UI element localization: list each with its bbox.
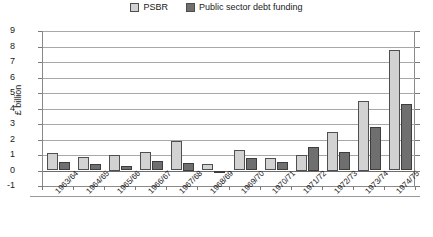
y-tick-label: 8 — [0, 42, 15, 51]
y-tick-label: -1 — [0, 181, 15, 190]
bar-public-sector-debt-funding — [401, 104, 412, 171]
bar-psbr — [296, 155, 307, 171]
legend-item-public-sector-debt-funding: Public sector debt funding — [186, 3, 303, 12]
bar-group — [198, 31, 229, 186]
legend-item-psbr: PSBR — [130, 3, 168, 12]
bar-group — [292, 31, 323, 186]
y-tick-mark-right — [415, 31, 420, 32]
legend-label-public-sector-debt-funding: Public sector debt funding — [199, 3, 303, 12]
y-tick-mark — [38, 62, 42, 63]
bar-group — [354, 31, 385, 186]
legend-swatch-public-sector-debt-funding — [186, 3, 195, 12]
y-tick-mark — [38, 171, 42, 172]
bar-public-sector-debt-funding — [339, 152, 350, 171]
y-tick-label: 4 — [0, 104, 15, 113]
y-tick-label: 6 — [0, 73, 15, 82]
y-tick-label: 1 — [0, 150, 15, 159]
plot-area — [42, 31, 415, 186]
legend-swatch-psbr — [130, 3, 139, 12]
bar-group — [136, 31, 167, 186]
y-tick-mark-right — [415, 140, 420, 141]
bar-public-sector-debt-funding — [246, 158, 257, 170]
bar-group — [105, 31, 136, 186]
bar-public-sector-debt-funding — [152, 161, 163, 170]
bar-psbr — [202, 164, 213, 170]
y-tick-label: 9 — [0, 26, 15, 35]
y-tick-mark — [38, 31, 42, 32]
y-tick-mark — [38, 155, 42, 156]
bar-psbr — [358, 101, 369, 171]
bar-psbr — [171, 141, 182, 170]
y-tick-mark — [38, 109, 42, 110]
y-tick-label: 2 — [0, 135, 15, 144]
bar-group — [385, 31, 416, 186]
bar-psbr — [327, 132, 338, 171]
y-tick-mark — [38, 140, 42, 141]
y-tick-mark-right — [415, 155, 420, 156]
bar-public-sector-debt-funding — [90, 164, 101, 170]
y-tick-mark — [38, 78, 42, 79]
bar-psbr — [389, 50, 400, 171]
y-tick-mark-right — [415, 124, 420, 125]
y-tick-mark — [38, 124, 42, 125]
bar-public-sector-debt-funding — [121, 166, 132, 171]
y-tick-label: 3 — [0, 119, 15, 128]
y-tick-label: 0 — [0, 166, 15, 175]
bar-public-sector-debt-funding — [308, 147, 319, 170]
legend-label-psbr: PSBR — [143, 3, 168, 12]
bar-groups — [43, 31, 416, 186]
y-tick-mark-right — [415, 109, 420, 110]
bar-group — [230, 31, 261, 186]
y-tick-mark — [38, 47, 42, 48]
bar-group — [74, 31, 105, 186]
bar-psbr — [234, 150, 245, 170]
bar-psbr — [140, 152, 151, 171]
bar-public-sector-debt-funding — [59, 162, 70, 171]
y-tick-mark-right — [415, 93, 420, 94]
bar-group — [261, 31, 292, 186]
y-tick-mark — [38, 93, 42, 94]
y-tick-label: 7 — [0, 57, 15, 66]
y-tick-mark-right — [415, 62, 420, 63]
y-tick-label: 5 — [0, 88, 15, 97]
bar-group — [43, 31, 74, 186]
bar-psbr — [265, 158, 276, 170]
bar-public-sector-debt-funding — [370, 127, 381, 170]
y-tick-mark-right — [415, 78, 420, 79]
bar-psbr — [47, 153, 58, 170]
bar-public-sector-debt-funding — [277, 162, 288, 171]
chart-legend: PSBR Public sector debt funding — [0, 3, 433, 12]
bar-chart: PSBR Public sector debt funding £ billio… — [0, 0, 433, 237]
bar-group — [323, 31, 354, 186]
bar-psbr — [78, 157, 89, 171]
y-tick-mark-right — [415, 47, 420, 48]
bar-psbr — [109, 155, 120, 171]
bar-public-sector-debt-funding — [183, 163, 194, 171]
x-axis-labels: 1963/641964/651965/661966/671967/681968/… — [42, 190, 415, 237]
bar-group — [167, 31, 198, 186]
x-tick-mark — [415, 186, 416, 190]
